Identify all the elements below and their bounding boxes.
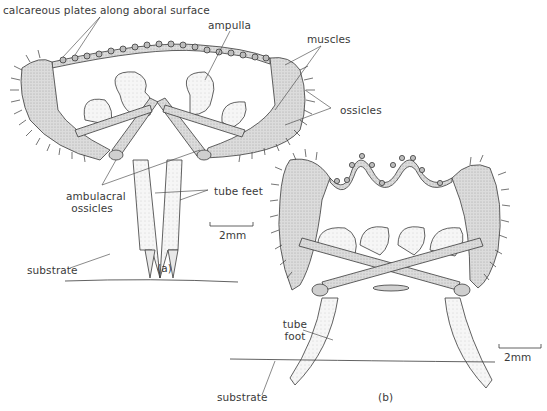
panel-b (230, 149, 541, 395)
label-substrate-a: substrate (27, 264, 78, 276)
label-tube-foot: tube foot (280, 318, 310, 342)
label-ossicles: ossicles (340, 104, 382, 116)
label-muscles: muscles (307, 33, 351, 45)
scale-bar-b (499, 344, 541, 348)
label-ambulacral-line1: ambulacral (66, 190, 118, 202)
mouth-ring (373, 285, 409, 291)
substrate-line-b (230, 359, 495, 362)
caption-a: (a) (157, 262, 172, 274)
ambulacral-ossicle-b-right (454, 284, 470, 296)
scale-bar-a (210, 222, 253, 226)
label-ambulacral-ossicles: ambulacral ossicles (66, 190, 118, 214)
ambulacral-ossicle-b-left (312, 284, 328, 296)
substrate-line-a (65, 280, 238, 282)
label-ampulla: ampulla (208, 19, 251, 31)
label-tube-feet: tube feet (214, 185, 263, 197)
ossicle-bars-b (299, 238, 483, 290)
label-ambulacral-line2: ossicles (66, 202, 118, 214)
ambulacral-ossicle-left (109, 150, 123, 160)
label-tube-foot-line2: foot (280, 330, 310, 342)
label-tube-foot-line1: tube (280, 318, 310, 330)
scale-bar-b-label: 2mm (504, 351, 531, 363)
starfish-tube-feet-diagram: calcareous plates along aboral surface a… (0, 0, 547, 411)
label-calcareous-plates: calcareous plates along aboral surface (3, 4, 210, 16)
label-substrate-b: substrate (217, 391, 268, 403)
ambulacral-ossicle-right (197, 150, 211, 160)
tube-feet-a (133, 160, 182, 278)
tube-feet-b (290, 298, 492, 388)
caption-b: (b) (378, 391, 393, 403)
scale-bar-a-label: 2mm (219, 229, 246, 241)
